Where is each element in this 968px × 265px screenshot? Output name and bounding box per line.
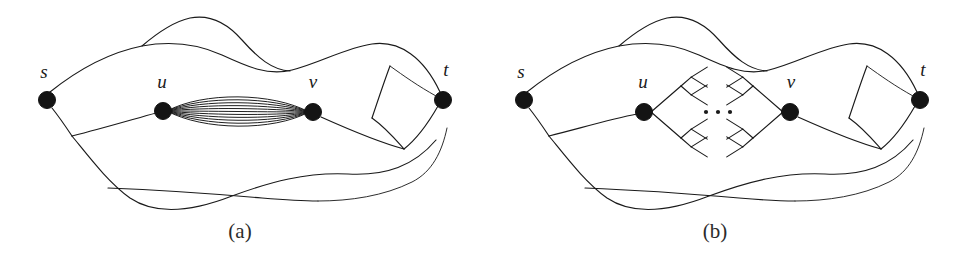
parallel-edge-6 [167, 111, 309, 112]
edge-bottom-chord-right [318, 128, 447, 201]
tree-u-branch-3 [681, 86, 691, 95]
tree-v-twig-2a [727, 67, 743, 77]
tree-u-branch-4 [651, 112, 681, 138]
edge-b-t-quad-upper [849, 66, 867, 118]
graph-node-s [516, 92, 533, 109]
tree-v-twig-3b [727, 95, 743, 105]
binary-tree-from-u [651, 67, 707, 157]
tree-u-branch-1 [651, 86, 681, 112]
edge-s-bottom-long [72, 136, 436, 210]
ellipsis-dot-2 [716, 110, 720, 114]
edge-t-quad-upper [372, 66, 390, 118]
tree-u-twig-6b [691, 147, 707, 157]
node-label-u: u [157, 71, 167, 92]
parallel-edge-bundle [167, 97, 309, 126]
tree-u-twig-2b [691, 77, 707, 87]
tree-u-twig-2a [691, 67, 707, 77]
tree-v-branch-2 [743, 77, 753, 86]
graph-node-s [39, 92, 56, 109]
edge-b-bottom-chord-right [795, 128, 924, 201]
graph-node-v [305, 104, 322, 121]
tree-v-twig-3a [727, 85, 743, 95]
panel-b-group: suvt (b) [516, 17, 929, 243]
node-label-v: v [787, 71, 796, 92]
tree-v-branch-4 [753, 112, 783, 138]
edge-v-right-to-t [404, 106, 438, 149]
tree-v-branch-3 [743, 86, 753, 95]
caption-a: (a) [228, 219, 251, 243]
edge-s-junction-lower [52, 108, 72, 136]
figure-canvas: suvt (a) [0, 0, 968, 265]
panel-a-node-labels: suvt [40, 59, 449, 92]
tree-v-branch-5 [743, 129, 753, 138]
graph-node-u [155, 103, 172, 120]
node-label-t: t [920, 59, 926, 80]
edge-top-to-t-diagonal [390, 66, 436, 96]
edge-bottom-chord [108, 188, 318, 201]
ellipsis-dot-1 [704, 110, 708, 114]
edge-b-s-junction-lower [529, 108, 549, 136]
tree-u-branch-5 [681, 129, 691, 138]
node-label-s: s [40, 61, 47, 82]
tree-v-twig-6a [727, 137, 743, 147]
tree-u-twig-5a [691, 119, 707, 129]
graph-node-t [435, 92, 452, 109]
edge-b-v-right-to-t [881, 106, 915, 149]
graph-node-t [912, 92, 929, 109]
edge-b-v-right-lower [798, 117, 881, 149]
binary-tree-from-v [727, 67, 783, 157]
caption-b: (b) [703, 219, 728, 243]
panel-b-node-labels: suvt [517, 59, 926, 92]
tree-v-twig-5b [727, 129, 743, 139]
node-label-v: v [309, 71, 318, 92]
edge-v-right-lower [321, 117, 404, 149]
figure-container: suvt (a) [0, 0, 968, 265]
edge-b-bottom-chord [585, 188, 795, 201]
tree-u-twig-3b [691, 95, 707, 105]
edge-b-junction-u [549, 114, 637, 136]
tree-u-branch-2 [681, 77, 691, 86]
edge-b-s-t-top-outer [527, 43, 917, 92]
node-label-u: u [638, 71, 648, 92]
tree-u-branch-6 [681, 138, 691, 147]
tree-u-twig-6a [691, 137, 707, 147]
graph-node-v [782, 104, 799, 121]
tree-u-twig-3a [691, 85, 707, 95]
node-label-s: s [517, 61, 524, 82]
tree-v-twig-6b [727, 147, 743, 157]
ellipsis-dot-3 [728, 110, 732, 114]
edge-b-s-bottom-long [549, 136, 913, 210]
node-label-t: t [443, 59, 449, 80]
tree-v-branch-1 [753, 86, 783, 112]
edge-s-t-top-outer [50, 43, 440, 92]
tree-v-twig-2b [727, 77, 743, 87]
panel-a-group: suvt (a) [39, 17, 452, 243]
tree-v-branch-6 [743, 138, 753, 147]
tree-u-twig-5b [691, 129, 707, 139]
panel-b-nodes [516, 92, 929, 121]
edge-junction-u [72, 113, 156, 136]
ellipsis-dots [704, 110, 732, 114]
tree-v-twig-5a [727, 119, 743, 129]
graph-node-u [636, 104, 653, 121]
edge-b-top-to-t-diagonal [867, 66, 913, 96]
